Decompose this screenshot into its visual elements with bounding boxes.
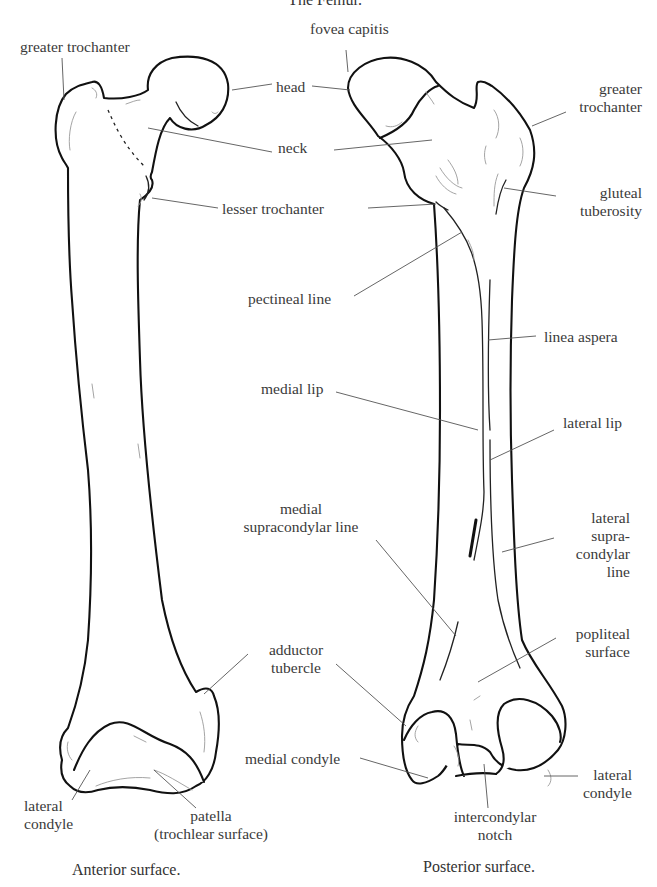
label-lateral-lip: lateral lip (563, 414, 622, 432)
label-head: head (276, 78, 305, 96)
label-adductor-tubercle-line1: adductor (256, 641, 336, 659)
label-fovea-capitis: fovea capitis (310, 20, 389, 38)
label-medial-supracondylar-line1: medial (236, 500, 366, 518)
posterior-femur (348, 58, 565, 786)
figure-title: The Femur. (250, 0, 400, 9)
caption-posterior-surface: Posterior surface. (423, 858, 535, 876)
label-medial-lip: medial lip (261, 380, 323, 398)
label-lateral-supracondylar-line: lateral supra- condylar line (560, 509, 630, 581)
label-lateral-condyle-anterior-line2: condyle (24, 815, 73, 833)
label-greater-trochanter-posterior-line2: trochanter (560, 98, 642, 116)
label-patella-line2: (trochlear surface) (146, 825, 276, 843)
label-greater-trochanter-anterior: greater trochanter (20, 38, 130, 56)
label-lateral-supracondylar-line1: lateral (560, 509, 630, 527)
label-popliteal-line2: surface (560, 643, 630, 661)
label-lateral-condyle-anterior-line1: lateral (24, 797, 73, 815)
anterior-femur-outline (56, 57, 229, 794)
label-lateral-supracondylar-line2: supra- (560, 527, 630, 545)
label-greater-trochanter-posterior-line1: greater (560, 80, 642, 98)
label-gluteal-tuberosity: gluteal tuberosity (556, 184, 642, 220)
label-lateral-condyle-posterior-line1: lateral (570, 766, 632, 784)
label-neck: neck (278, 139, 307, 157)
posterior-femur-outline (348, 58, 565, 784)
label-medial-supracondylar-line: medial supracondylar line (236, 500, 366, 536)
label-patella-trochlear-surface: patella (trochlear surface) (146, 807, 276, 843)
label-adductor-tubercle: adductor tubercle (256, 641, 336, 677)
label-gluteal-tuberosity-line1: gluteal (556, 184, 642, 202)
caption-anterior-surface: Anterior surface. (72, 861, 180, 879)
label-pectineal-line: pectineal line (248, 290, 331, 308)
label-patella-line1: patella (146, 807, 276, 825)
label-linea-aspera: linea aspera (544, 328, 618, 346)
label-greater-trochanter-posterior: greater trochanter (560, 80, 642, 116)
label-lateral-condyle-posterior: lateral condyle (570, 766, 632, 802)
label-medial-supracondylar-line2: supracondylar line (236, 518, 366, 536)
label-adductor-tubercle-line2: tubercle (256, 659, 336, 677)
label-lateral-supracondylar-line4: line (560, 563, 630, 581)
label-popliteal-line1: popliteal (560, 625, 630, 643)
label-lesser-trochanter: lesser trochanter (222, 200, 324, 218)
label-popliteal-surface: popliteal surface (560, 625, 630, 661)
label-intercondylar-line1: intercondylar (440, 808, 550, 826)
label-intercondylar-notch: intercondylar notch (440, 808, 550, 844)
label-gluteal-tuberosity-line2: tuberosity (556, 202, 642, 220)
anterior-femur (56, 57, 229, 794)
label-lateral-condyle-anterior: lateral condyle (24, 797, 73, 833)
label-medial-condyle: medial condyle (245, 750, 340, 768)
label-lateral-condyle-posterior-line2: condyle (570, 784, 632, 802)
label-intercondylar-line2: notch (440, 826, 550, 844)
label-lateral-supracondylar-line3: condylar (560, 545, 630, 563)
